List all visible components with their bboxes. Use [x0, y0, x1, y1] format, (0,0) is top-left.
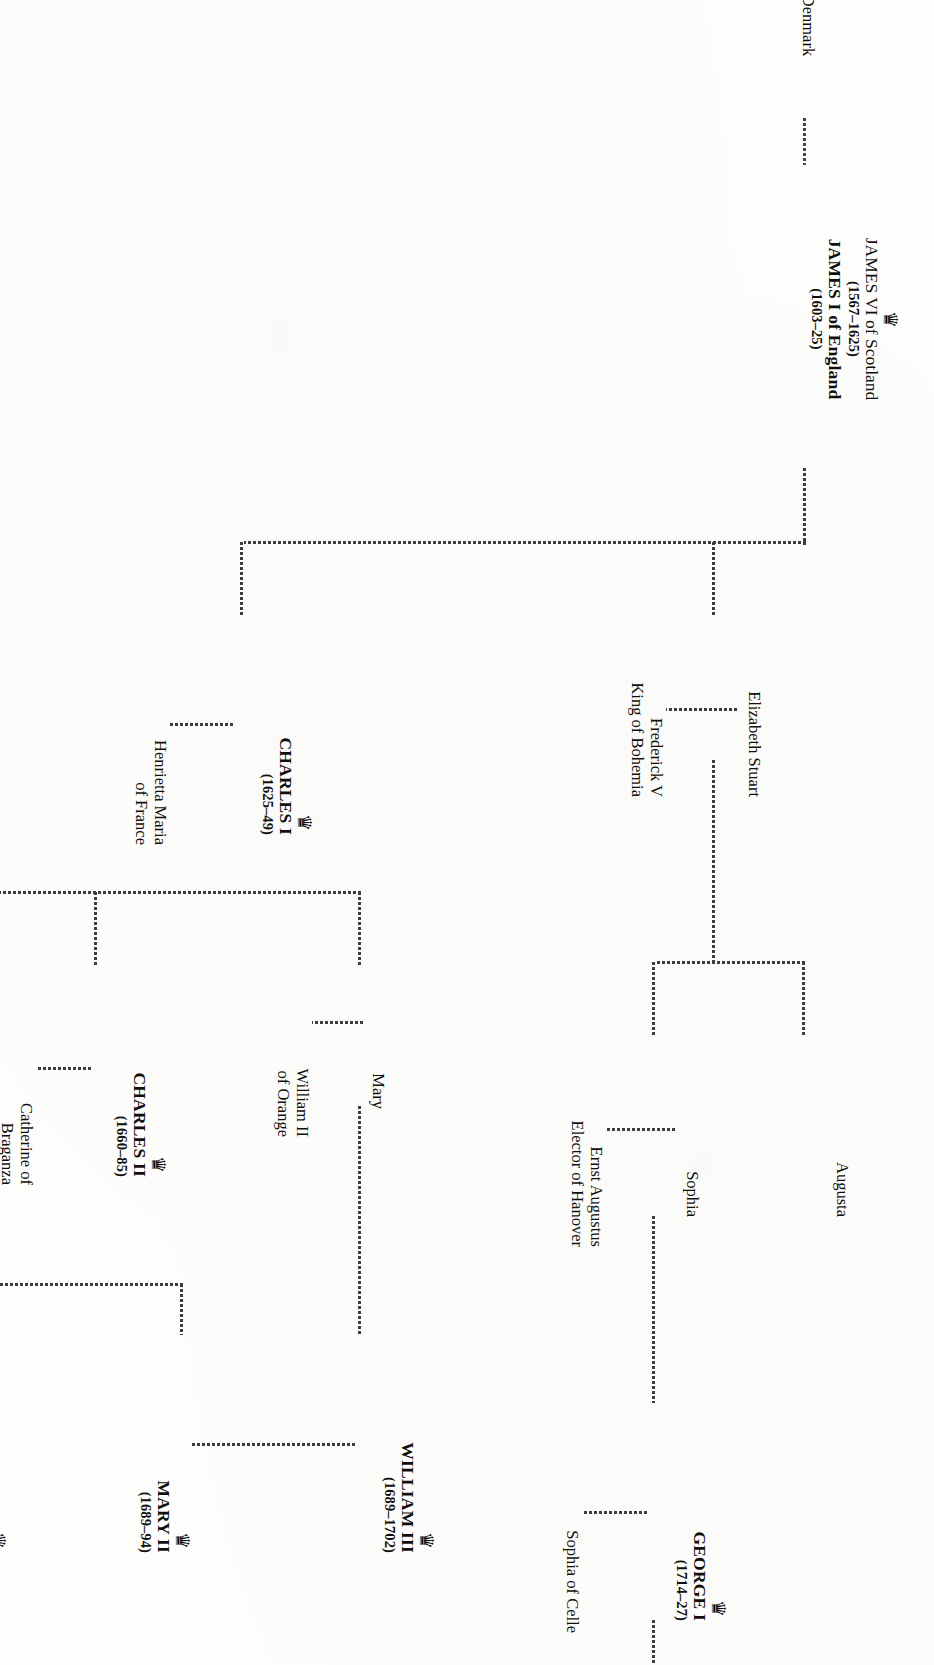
node-sophia-line1: Sophia	[683, 1037, 702, 1217]
descent-link-elizabeth-stuart	[711, 541, 716, 617]
marriage-tie-charles-ii-catherine	[36, 1066, 92, 1071]
node-henrietta-maria-line1: Henrietta Maria	[151, 617, 170, 845]
node-mary-stuart-line1: Mary	[369, 965, 388, 1109]
node-william-ii-of-orange[interactable]: William II of Orange	[274, 965, 312, 1137]
node-mary-ii-dates1: (1689–94)	[137, 1335, 154, 1553]
node-ernst-augustus-line1: Ernst Augustus	[587, 1037, 606, 1247]
node-james-i-line1: JAMES VI of Scotland	[862, 169, 882, 469]
node-william-iii[interactable]: ♛ WILLIAM III (1689–1702)	[381, 1335, 434, 1553]
hanover-line-continuation	[651, 1619, 656, 1665]
descent-link-charles-ii	[93, 891, 98, 965]
crown-icon: ♛	[883, 308, 898, 330]
node-mary-stuart[interactable]: Mary	[369, 965, 388, 1109]
node-charles-ii-line1: CHARLES II	[130, 965, 150, 1177]
node-frederick-v-line2: King of Bohemia	[628, 617, 647, 797]
descent-link-george-i	[651, 1215, 656, 1403]
marriage-link-james-i-anne-of-denmark	[802, 117, 807, 165]
node-anne-of-denmark-line1: Anne of Denmark	[799, 0, 818, 117]
node-augusta-line1: Augusta	[833, 1037, 852, 1217]
node-elizabeth-stuart[interactable]: Elizabeth Stuart	[745, 617, 764, 797]
descent-link-mary-ii	[179, 1283, 184, 1335]
descent-spine-augusta	[656, 960, 806, 965]
node-james-i-line2: JAMES I of England	[825, 169, 845, 469]
node-frederick-v[interactable]: Frederick V King of Bohemia	[628, 617, 666, 797]
rotated-chart-stage: ♛ JAMES VI of Scotland (1567–1625) JAMES…	[0, 0, 934, 1665]
node-george-i-line1: GEORGE I	[690, 1403, 710, 1621]
node-sophia-of-celle[interactable]: Sophia of Celle	[563, 1403, 582, 1633]
node-charles-ii[interactable]: ♛ CHARLES II (1660–85)	[113, 965, 166, 1177]
node-mary-ii[interactable]: ♛ MARY II (1689–94)	[137, 1335, 190, 1553]
node-william-ii-line1: William II	[293, 965, 312, 1137]
node-mary-ii-line1: MARY II	[154, 1335, 174, 1553]
node-catherine-line2: Braganza	[0, 965, 17, 1185]
node-anne-of-denmark[interactable]: Anne of Denmark	[799, 0, 818, 117]
node-james-i-dates2: (1603–25)	[808, 169, 825, 469]
node-charles-i-dates1: (1625–49)	[259, 617, 276, 835]
node-james-i[interactable]: ♛ JAMES VI of Scotland (1567–1625) JAMES…	[808, 169, 898, 469]
crown-icon: ♛	[0, 1529, 6, 1551]
node-augusta[interactable]: Augusta	[833, 1037, 852, 1217]
node-henrietta-maria[interactable]: Henrietta Maria of France	[132, 617, 170, 845]
crown-icon: ♛	[711, 1597, 726, 1619]
node-catherine-of-braganza[interactable]: Catherine of Braganza	[0, 965, 36, 1185]
node-charles-i[interactable]: ♛ CHARLES I (1625–49)	[259, 617, 312, 835]
descent-link-augusta	[801, 961, 806, 1037]
node-ernst-augustus[interactable]: Ernst Augustus Elector of Hanover	[568, 1037, 606, 1247]
family-tree: ♛ JAMES VI of Scotland (1567–1625) JAMES…	[0, 0, 934, 1665]
crown-icon: ♛	[151, 1153, 166, 1175]
node-catherine-line1: Catherine of	[17, 965, 36, 1185]
marriage-tie-elizabeth-frederick	[666, 707, 738, 712]
descent-spine-charles-i	[0, 890, 362, 895]
descent-spine-james-i	[244, 540, 807, 545]
node-charles-i-line1: CHARLES I	[276, 617, 296, 835]
node-william-iii-line1: WILLIAM III	[398, 1335, 418, 1553]
crown-icon: ♛	[297, 811, 312, 833]
marriage-tie-mary-william-ii	[312, 1020, 364, 1025]
node-william-iii-dates1: (1689–1702)	[381, 1335, 398, 1553]
node-elizabeth-stuart-line1: Elizabeth Stuart	[745, 617, 764, 797]
descent-link-james-i-stem	[802, 467, 807, 545]
node-george-i[interactable]: ♛ GEORGE I (1714–27)	[673, 1403, 726, 1621]
marriage-tie-george-i-sophia-celle	[582, 1510, 648, 1515]
marriage-tie-william-iii-mary-ii	[190, 1442, 356, 1447]
descent-link-william-iii	[357, 1105, 362, 1335]
descent-link-mary-stuart	[357, 891, 362, 965]
node-george-i-dates1: (1714–27)	[673, 1403, 690, 1621]
descent-link-charles-i	[239, 541, 244, 617]
node-william-ii-line2: of Orange	[274, 965, 293, 1137]
node-sophia-of-celle-line1: Sophia of Celle	[563, 1403, 582, 1633]
descent-link-frederick-stem	[711, 759, 716, 965]
marriage-tie-charles-i-henrietta	[170, 722, 234, 727]
node-anne[interactable]: ♛ ANNE (1702–14)	[0, 1335, 6, 1553]
marriage-tie-sophia-ernst	[606, 1127, 676, 1132]
node-sophia[interactable]: Sophia	[683, 1037, 702, 1217]
node-frederick-v-line1: Frederick V	[647, 617, 666, 797]
crown-icon: ♛	[419, 1529, 434, 1551]
descent-link-sophia	[651, 961, 656, 1037]
crown-icon: ♛	[175, 1529, 190, 1551]
node-ernst-augustus-line2: Elector of Hanover	[568, 1037, 587, 1247]
node-james-i-dates1: (1567–1625)	[845, 169, 862, 469]
node-henrietta-maria-line2: of France	[132, 617, 151, 845]
node-charles-ii-dates1: (1660–85)	[113, 965, 130, 1177]
descent-spine-anne-hyde-children	[0, 1282, 184, 1287]
